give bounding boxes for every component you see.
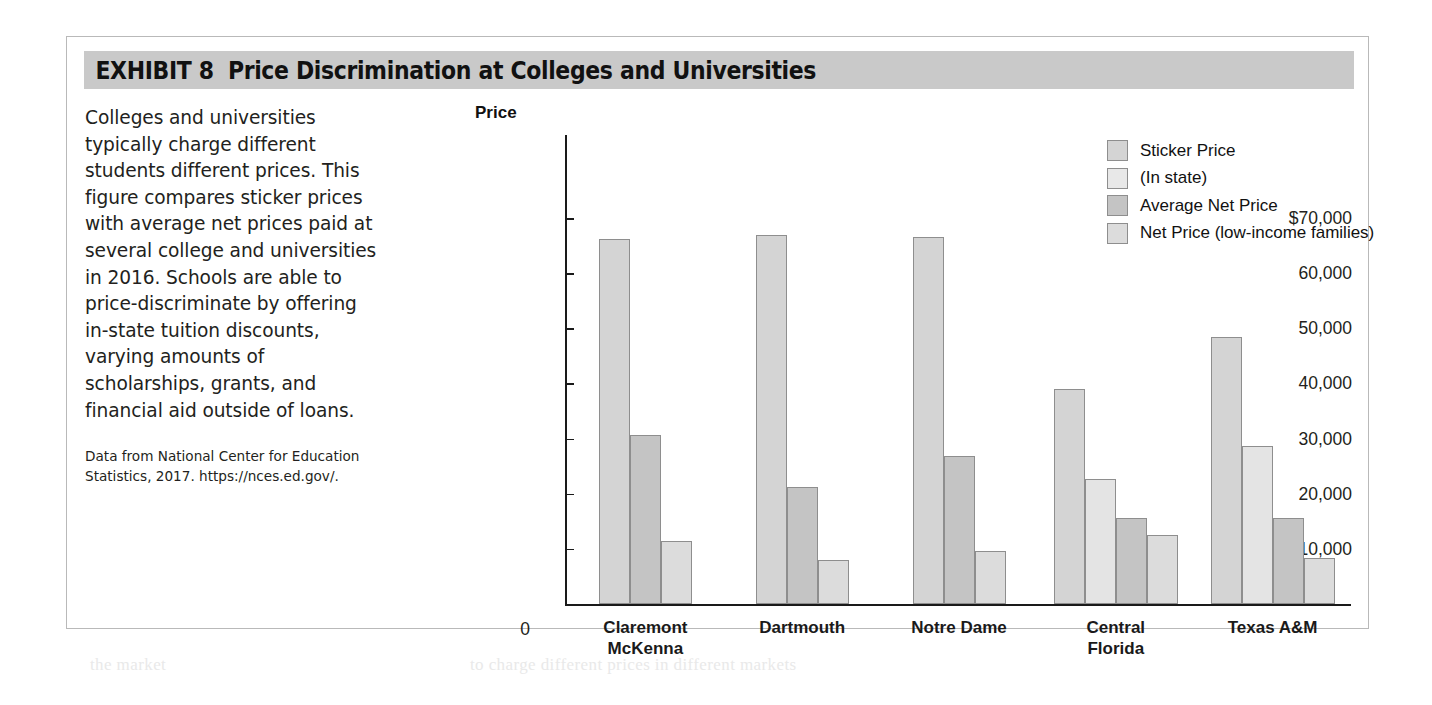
bar	[787, 487, 818, 604]
legend-item-label: (In state)	[1140, 168, 1207, 188]
y-axis-zero-label: 0	[505, 619, 545, 640]
bar	[1242, 446, 1273, 604]
bar	[1054, 389, 1085, 604]
bar	[1211, 337, 1242, 604]
y-axis-tick-label: 50,000	[1224, 318, 1352, 339]
y-axis-tick	[565, 328, 574, 330]
chart-legend: Sticker Price(In state)Average Net Price…	[1107, 139, 1374, 249]
exhibit-number: EXHIBIT 8	[95, 56, 213, 85]
bar	[1273, 518, 1304, 604]
x-axis-category-label: Texas A&M	[1194, 617, 1351, 638]
legend-item: Sticker Price	[1107, 139, 1374, 162]
y-axis-tick-label: 60,000	[1224, 263, 1352, 284]
legend-item: Average Net Price	[1107, 194, 1374, 217]
x-axis-category-label: Notre Dame	[881, 617, 1038, 638]
legend-swatch-icon	[1107, 140, 1128, 161]
y-axis-tick	[565, 383, 574, 385]
page-bleed-text: the market	[90, 655, 166, 675]
legend-item: Net Price (low-income families)	[1107, 222, 1374, 245]
caption-body-text: Colleges and universities typically char…	[85, 105, 385, 424]
chart-plot-area: Price $70,00060,00050,00040,00030,00020,…	[417, 97, 1352, 617]
bar	[913, 237, 944, 604]
bar	[630, 435, 661, 604]
y-axis-tick	[565, 549, 574, 551]
x-axis-line	[565, 604, 1351, 606]
exhibit-title: Price Discrimination at Colleges and Uni…	[228, 56, 816, 85]
x-axis-category-label: Dartmouth	[724, 617, 881, 638]
legend-item-label: Average Net Price	[1140, 196, 1278, 216]
y-axis-tick	[565, 273, 574, 275]
bar	[1304, 558, 1335, 604]
legend-item: (In state)	[1107, 167, 1374, 190]
bar	[661, 541, 692, 604]
exhibit-header-band: EXHIBIT 8Price Discrimination at College…	[84, 51, 1354, 89]
bar	[1147, 535, 1178, 604]
y-axis-tick-label: 40,000	[1224, 373, 1352, 394]
legend-swatch-icon	[1107, 168, 1128, 189]
bar	[756, 235, 787, 604]
legend-swatch-icon	[1107, 195, 1128, 216]
bar	[1116, 518, 1147, 604]
y-axis-tick	[565, 439, 574, 441]
bar	[944, 456, 975, 604]
caption-column: Colleges and universities typically char…	[85, 105, 405, 486]
y-axis-tick	[565, 494, 574, 496]
bar	[818, 560, 849, 604]
y-axis-title: Price	[475, 103, 517, 123]
bar	[599, 239, 630, 604]
legend-item-label: Net Price (low-income families)	[1140, 223, 1374, 243]
exhibit-box: EXHIBIT 8Price Discrimination at College…	[66, 36, 1369, 629]
y-axis-tick	[565, 218, 574, 220]
bar	[975, 551, 1006, 604]
exhibit-header-text: EXHIBIT 8Price Discrimination at College…	[84, 56, 816, 85]
bar	[1085, 479, 1116, 604]
caption-source-note: Data from National Center for Education …	[85, 446, 385, 486]
legend-item-label: Sticker Price	[1140, 141, 1235, 161]
y-axis-line	[565, 135, 567, 605]
x-axis-category-label: Central Florida	[1037, 617, 1194, 659]
x-axis-category-label: Claremont McKenna	[567, 617, 724, 659]
legend-swatch-icon	[1107, 223, 1128, 244]
